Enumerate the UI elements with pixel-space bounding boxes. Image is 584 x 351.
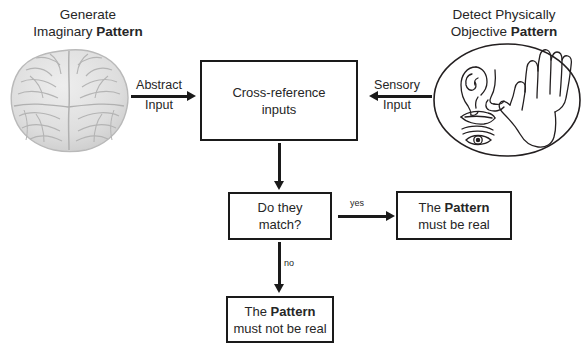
- no-edge-label: no: [284, 258, 308, 269]
- outcome-not-real-line1: The Pattern: [233, 303, 326, 320]
- abstract-input-line1: Abstract: [128, 78, 190, 93]
- no-arrow-head: [274, 284, 284, 293]
- left-title-line2: Imaginary Pattern: [8, 23, 168, 40]
- cross-reference-label: Cross-reference inputs: [232, 84, 325, 118]
- yes-arrow-head: [386, 211, 395, 221]
- brain-illustration: [6, 44, 132, 156]
- right-title-line2-bold: Pattern: [511, 24, 558, 39]
- no-arrow-line: [278, 242, 281, 284]
- right-title: Detect Physically Objective Pattern: [424, 6, 584, 40]
- decision-node: Do they match?: [228, 192, 332, 240]
- left-title: Generate Imaginary Pattern: [8, 6, 168, 40]
- cross-reference-node: Cross-reference inputs: [200, 60, 358, 141]
- abstract-input-line2: Input: [128, 98, 190, 113]
- outcome-real-line2: must be real: [418, 216, 490, 233]
- outcome-real-node: The Pattern must be real: [396, 191, 512, 240]
- decision-line1: Do they: [258, 199, 303, 216]
- diagram-canvas: Generate Imaginary Pattern: [0, 0, 584, 351]
- decision-line2: match?: [258, 216, 303, 233]
- outcome-not-real-plain: The: [245, 304, 271, 319]
- outcome-real-bold: Pattern: [445, 200, 490, 215]
- outcome-not-real-line2: must not be real: [233, 320, 326, 337]
- abstract-input-label-2: Input: [128, 98, 190, 113]
- left-title-line2-plain: Imaginary: [33, 24, 96, 39]
- outcome-real-plain: The: [419, 200, 445, 215]
- left-title-line2-bold: Pattern: [96, 24, 143, 39]
- box-to-decision-arrow-line: [278, 143, 281, 181]
- outcome-not-real-node: The Pattern must not be real: [226, 296, 334, 343]
- outcome-real-label: The Pattern must be real: [418, 199, 490, 233]
- outcome-not-real-label: The Pattern must not be real: [233, 303, 326, 337]
- cross-reference-line2: inputs: [232, 101, 325, 118]
- sensory-input-label-2: Input: [366, 98, 428, 113]
- outcome-not-real-bold: Pattern: [271, 304, 316, 319]
- left-title-line1: Generate: [8, 6, 168, 23]
- yes-arrow-line: [338, 215, 386, 218]
- cross-reference-line1: Cross-reference: [232, 84, 325, 101]
- right-title-line2: Objective Pattern: [424, 23, 584, 40]
- decision-label: Do they match?: [258, 199, 303, 233]
- yes-edge-label: yes: [340, 198, 374, 209]
- right-title-line2-plain: Objective: [451, 24, 511, 39]
- sensory-input-line2: Input: [366, 98, 428, 113]
- senses-oval-illustration: [432, 42, 582, 158]
- box-to-decision-arrow-head: [274, 181, 284, 190]
- outcome-real-line1: The Pattern: [418, 199, 490, 216]
- right-title-line1: Detect Physically: [424, 6, 584, 23]
- abstract-input-label: Abstract: [128, 78, 190, 93]
